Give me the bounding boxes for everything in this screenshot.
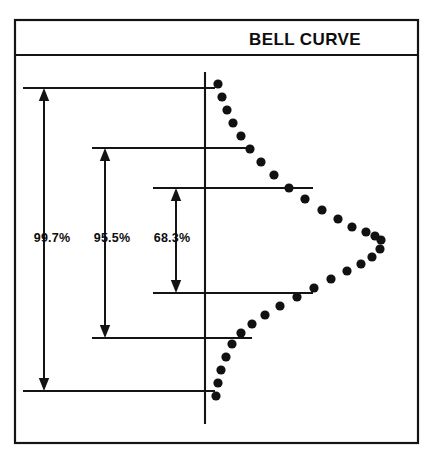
curve-dot-27 (227, 339, 236, 348)
curve-dot-13 (361, 227, 370, 236)
curve-dot-23 (275, 301, 284, 310)
curve-dot-12 (347, 222, 356, 231)
curve-dot-18 (356, 259, 365, 268)
curve-dot-10 (317, 205, 326, 214)
curve-dot-3 (228, 118, 237, 127)
curve-dot-15 (376, 235, 385, 244)
curve-dot-16 (375, 244, 384, 253)
curve-dot-24 (260, 310, 269, 319)
curve-dot-29 (216, 365, 225, 374)
interval-label-3: 99.7% (34, 231, 70, 245)
bell-curve-canvas: BELL CURVE 99.7%95.5%68.3% (0, 0, 434, 461)
curve-dot-2 (222, 105, 231, 114)
curve-dot-1 (217, 92, 226, 101)
interval-label-2: 95.5% (94, 231, 130, 245)
curve-dot-4 (236, 131, 245, 140)
curve-dot-28 (221, 352, 230, 361)
interval-label-1: 68.3% (154, 231, 190, 245)
curve-dot-26 (236, 328, 245, 337)
curve-dot-9 (300, 194, 309, 203)
curve-dot-31 (211, 391, 220, 400)
figure-title: BELL CURVE (249, 30, 361, 49)
curve-dot-17 (367, 252, 376, 261)
interval-labels-group: 99.7%95.5%68.3% (34, 231, 190, 245)
curve-dot-19 (342, 266, 351, 275)
bell-curve-figure: BELL CURVE 99.7%95.5%68.3% (0, 0, 434, 461)
curve-dot-20 (326, 274, 335, 283)
curve-dot-25 (247, 319, 256, 328)
curve-dot-6 (256, 157, 265, 166)
curve-dot-21 (309, 283, 318, 292)
curve-dot-11 (333, 214, 342, 223)
curve-dot-30 (213, 378, 222, 387)
curve-dot-7 (269, 170, 278, 179)
